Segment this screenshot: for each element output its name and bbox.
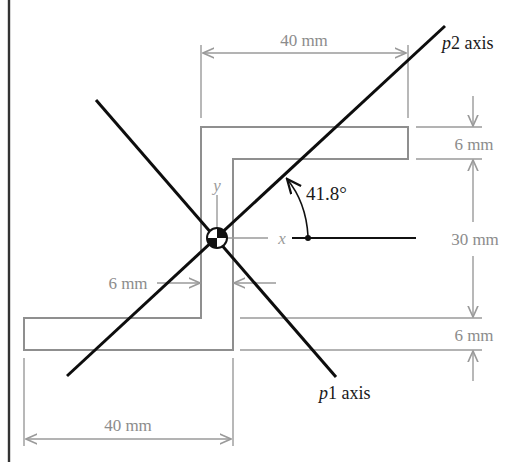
p2-symbol: p [440, 33, 451, 53]
x-axis-label: x [277, 229, 286, 248]
y-axis-label: y [211, 176, 221, 195]
p2-axis-label: p2 axis [440, 33, 494, 53]
bottom-flange-thickness-label: 6 mm [454, 326, 493, 345]
p2-axis-line [67, 26, 445, 376]
web-thickness-label: 6 mm [108, 274, 147, 293]
angle-label: 41.8° [306, 183, 347, 204]
centroid-marker-icon [207, 228, 227, 248]
angle-indicator: 41.8° [287, 179, 416, 241]
p2-index: 2 [451, 33, 460, 53]
bottom-flange-width-dimension: 40 mm [24, 358, 233, 446]
angle-arc [287, 179, 308, 236]
web-height-label: 30 mm [451, 230, 499, 249]
bottom-flange-width-label: 40 mm [104, 416, 152, 435]
p1-suffix: axis [337, 383, 371, 403]
p2-suffix: axis [460, 33, 494, 53]
top-flange-width-label: 40 mm [280, 31, 328, 50]
top-flange-width-dimension: 40 mm [201, 31, 408, 118]
p1-index: 1 [328, 383, 337, 403]
z-section-diagram: 40 mm 6 mm 30 mm 6 mm 6 mm 40 mm y [0, 0, 523, 462]
top-flange-thickness-label: 6 mm [454, 135, 493, 154]
p1-axis-label: p1 axis [317, 383, 371, 403]
p1-symbol: p [317, 383, 328, 403]
